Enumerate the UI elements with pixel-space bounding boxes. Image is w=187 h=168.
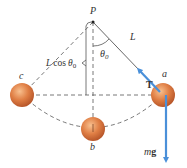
tension-label: T [146, 79, 153, 90]
position-a-label: a [162, 68, 167, 79]
pendulum-diagram: P L θ0 Lcosθ0 T mg a b c [0, 0, 187, 168]
length-label: L [129, 31, 136, 42]
lcos-brace [86, 22, 91, 26]
ball-c [10, 83, 34, 107]
angle-arc [93, 39, 109, 46]
pivot-point [91, 20, 94, 23]
position-b-label: b [90, 141, 95, 152]
angle-label: θ0 [100, 48, 109, 61]
pivot-label: P [89, 5, 96, 16]
position-c-label: c [19, 70, 24, 81]
diagram-canvas: P L θ0 Lcosθ0 T mg a b c [0, 0, 187, 168]
curly-brace [82, 60, 86, 66]
weight-label: mg [144, 146, 156, 157]
lcos-label: Lcosθ0 [45, 58, 77, 70]
